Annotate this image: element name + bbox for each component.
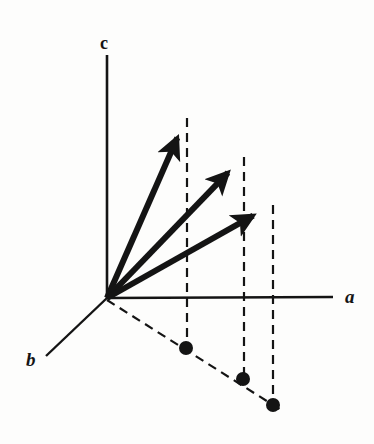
- projection-point-2: [236, 372, 250, 386]
- figure-canvas: c a b: [0, 0, 374, 444]
- axis-a: [107, 297, 333, 298]
- axis-vector-diagram: c a b: [0, 0, 374, 444]
- axis-label-c: c: [100, 33, 108, 53]
- axis-label-a: a: [345, 286, 355, 307]
- projection-point-3: [266, 398, 280, 412]
- projection-point-1: [179, 341, 193, 355]
- axis-label-b: b: [26, 349, 36, 370]
- figure-background: [0, 0, 374, 444]
